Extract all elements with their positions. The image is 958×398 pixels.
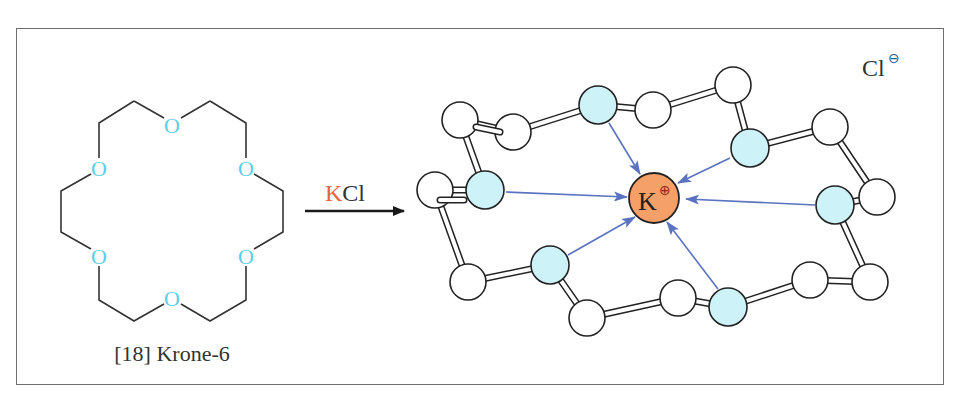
carbon-atom [450,264,486,300]
carbon-atom [442,102,478,138]
oxygen-atom [579,86,617,124]
oxygen-label: O [91,244,107,269]
oxygen-label: O [238,156,254,181]
oxygen-label: O [238,244,254,269]
coordination-arrow [678,158,730,183]
oxygen-atom [816,186,854,224]
oxygen-label: O [164,286,180,311]
carbon-atom [569,300,605,336]
crown-oxygen-labels: O O O O O O [91,113,254,311]
coordination-arrow [568,217,635,255]
negative-charge-icon: ⊖ [888,50,900,66]
carbon-atom [635,92,671,128]
carbon-atom [715,67,751,103]
coordination-arrow [506,192,627,197]
oxygen-atom [531,246,569,284]
coordination-arrow [609,123,640,174]
carbon-atom [660,280,696,316]
anion-symbol: Cl [862,55,885,81]
coordination-arrow [686,199,815,205]
oxygen-label: O [91,156,107,181]
coordination-arrow [667,222,718,289]
reagent-label: KCl [325,180,365,206]
oxygen-atom [466,171,504,209]
crown-ether-name: [18] Krone-6 [114,341,229,366]
cation-symbol: K [638,187,657,216]
positive-charge-icon: ⊕ [659,182,671,198]
reagent-chloride: Cl [342,180,365,206]
carbon-atom [792,262,828,298]
reaction-diagram: O O O O O O [18] Krone-6 KCl [0,0,958,398]
oxygen-atom [709,288,747,326]
carbon-atom [852,264,888,300]
carbon-atom [859,179,895,215]
reagent-potassium: K [325,180,343,206]
oxygen-atom [731,129,769,167]
carbon-atom [812,109,848,145]
oxygen-label: O [164,113,180,138]
